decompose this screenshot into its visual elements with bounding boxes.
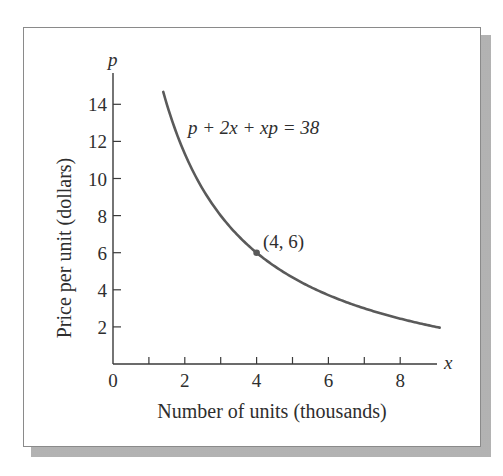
x-tick-label: 2 bbox=[180, 370, 190, 391]
y-ticks bbox=[113, 104, 121, 327]
y-tick-label: 10 bbox=[88, 169, 107, 190]
x-tick-label: 0 bbox=[108, 370, 118, 391]
y-tick-label: 2 bbox=[98, 317, 108, 338]
x-axis-label: Number of units (thousands) bbox=[157, 400, 386, 423]
x-ticks bbox=[149, 357, 400, 364]
y-tick-label: 8 bbox=[98, 206, 108, 227]
y-axis-label: Price per unit (dollars) bbox=[53, 158, 76, 339]
y-tick-labels: 2468101214 bbox=[88, 94, 108, 338]
x-tick-labels: 02468 bbox=[108, 370, 405, 391]
y-tick-label: 6 bbox=[98, 243, 108, 264]
x-tick-label: 6 bbox=[324, 370, 334, 391]
equation-label: p + 2x + xp = 38 bbox=[186, 117, 320, 138]
x-axis-symbol: x bbox=[443, 352, 453, 373]
y-tick-label: 12 bbox=[88, 131, 107, 152]
chart-plot: 02468 2468101214 p x (4, 6) p + 2x + xp … bbox=[0, 0, 503, 476]
point-label: (4, 6) bbox=[263, 231, 304, 253]
y-axis-symbol: p bbox=[106, 49, 118, 70]
x-tick-label: 4 bbox=[252, 370, 262, 391]
x-tick-label: 8 bbox=[395, 370, 405, 391]
point-marker bbox=[253, 249, 260, 256]
y-tick-label: 14 bbox=[88, 94, 108, 115]
y-tick-label: 4 bbox=[98, 280, 108, 301]
